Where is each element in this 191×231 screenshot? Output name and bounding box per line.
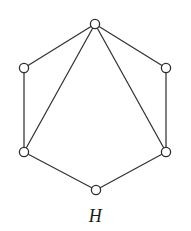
graph-vertex-lower-right [161, 147, 170, 156]
graph-vertex-top [90, 19, 99, 28]
graph-figure: H [0, 0, 191, 231]
graph-vertex-lower-left [19, 147, 28, 156]
graph-diagram [0, 0, 191, 231]
graph-edge-top-to-lower-right [95, 24, 166, 152]
graph-vertex-upper-right [161, 63, 170, 72]
graph-vertex-upper-left [19, 63, 28, 72]
edge-layer [24, 24, 166, 190]
graph-edge-top-to-lower-left [24, 24, 95, 152]
graph-vertex-bottom [91, 185, 100, 194]
graph-edge-upper-left-to-top [24, 24, 95, 68]
graph-edge-lower-right-to-bottom [96, 152, 166, 190]
figure-label: H [0, 206, 191, 226]
graph-edge-top-to-upper-right [95, 24, 166, 68]
graph-edge-bottom-to-lower-left [24, 152, 96, 190]
vertex-layer [19, 19, 170, 194]
